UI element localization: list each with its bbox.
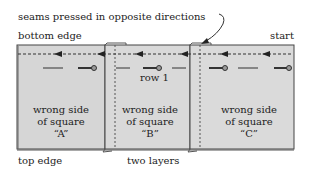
square-b-line3: “B”	[108, 128, 192, 140]
square-a-line1: wrong side	[20, 104, 102, 116]
square-c-line1: wrong side	[202, 104, 296, 116]
square-a-line2: of square	[20, 116, 102, 128]
arrow-head-icon	[201, 38, 209, 44]
square-a-line3: “A”	[20, 128, 102, 140]
square-b-line2: of square	[108, 116, 192, 128]
label-row-1: row 1	[140, 73, 169, 83]
square-a-label: wrong side of square “A”	[20, 104, 102, 140]
label-two-layers: two layers	[127, 156, 179, 166]
square-b-line1: wrong side	[108, 104, 192, 116]
square-b-label: wrong side of square “B”	[108, 104, 192, 140]
label-start: start	[270, 31, 294, 41]
quilt-diagram	[0, 0, 312, 173]
square-c-line2: of square	[202, 116, 296, 128]
annotation-arrow	[206, 14, 224, 41]
square-c-line3: “C”	[202, 128, 296, 140]
square-c-label: wrong side of square “C”	[202, 104, 296, 140]
label-bottom-edge: bottom edge	[18, 31, 82, 41]
annotation-seams: seams pressed in opposite directions	[18, 12, 205, 22]
label-top-edge: top edge	[18, 156, 62, 166]
